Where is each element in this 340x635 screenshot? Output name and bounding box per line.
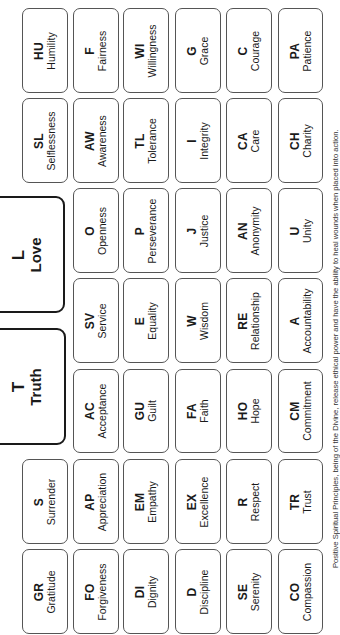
principle-name: Willingness	[147, 24, 158, 77]
principle-name: Awareness	[97, 115, 108, 167]
principle-cell: HUHumility	[22, 8, 68, 93]
principle-name: Hope	[250, 398, 261, 423]
principle-name: Dignity	[147, 575, 158, 607]
symbol: EM	[134, 481, 147, 522]
principle-name: Appreciation	[97, 472, 108, 530]
principle-name: Acceptance	[97, 384, 108, 439]
principle-cell: FFairness	[73, 8, 119, 93]
principle-name: Empathy	[147, 481, 158, 522]
principle-cell: SESerenity	[226, 549, 272, 634]
symbol: GU	[134, 400, 147, 422]
principle-name: Service	[97, 303, 108, 338]
principle-cell: EXExcellence	[175, 459, 221, 544]
principle-cell: WIWillingness	[123, 8, 169, 93]
principle-cell: DIDignity	[123, 549, 169, 634]
principle-cell: RERelationship	[226, 278, 272, 363]
principle-name: Courage	[250, 30, 261, 70]
principle-cell: EEquality	[123, 278, 169, 363]
symbol: P	[134, 198, 147, 263]
principle-name: Truth	[28, 368, 44, 406]
symbol: CA	[237, 129, 250, 152]
principle-name: Accountability	[301, 288, 312, 353]
symbol: I	[186, 122, 199, 159]
principle-cell: CMCommitment	[278, 369, 323, 453]
principle-name: Grace	[199, 36, 210, 65]
principle-name: Serenity	[250, 572, 261, 611]
symbol: O	[84, 207, 97, 255]
symbol: TR	[289, 490, 302, 514]
principle-cell: FOForgiveness	[73, 549, 119, 634]
principle-cell: UUnity	[278, 188, 323, 273]
principle-name: Patience	[301, 30, 312, 71]
symbol: U	[289, 219, 302, 243]
principle-cell: JJustice	[175, 188, 221, 273]
principle-name: Discipline	[199, 569, 210, 614]
symbol: SE	[237, 572, 250, 611]
principle-cell: CCourage	[226, 8, 272, 93]
principle-cell: PAPatience	[278, 8, 323, 93]
principle-name: Faith	[199, 399, 210, 422]
symbol: C	[237, 30, 250, 70]
principle-cell: EMEmpathy	[123, 459, 169, 544]
principle-name: Relationship	[250, 292, 261, 350]
symbol: AW	[84, 115, 97, 167]
symbol: T	[10, 368, 28, 406]
principle-name: Forgiveness	[97, 563, 108, 620]
principle-love-featured: LLove	[0, 196, 65, 313]
principle-name: Wisdom	[199, 302, 210, 340]
principle-cell: IIntegrity	[175, 98, 221, 183]
principle-cell: APAppreciation	[73, 459, 119, 544]
principle-name: Anonymity	[250, 206, 261, 255]
principle-name: Equality	[147, 302, 158, 339]
symbol: SL	[33, 111, 46, 170]
principle-name: Fairness	[97, 30, 108, 70]
principle-cell: ANAnonymity	[226, 188, 272, 273]
principle-cell: SVService	[73, 278, 119, 363]
principle-cell: TRTrust	[278, 459, 323, 544]
symbol: S	[33, 478, 46, 525]
principle-name: Trust	[301, 490, 312, 514]
principle-name: Excellence	[199, 476, 210, 527]
principle-cell: RRespect	[226, 459, 272, 544]
principle-name: Tolerance	[147, 118, 158, 164]
principle-cell: WWisdom	[175, 278, 221, 363]
symbol: D	[186, 569, 199, 614]
symbol: HU	[33, 32, 46, 69]
symbol: TL	[134, 118, 147, 164]
principle-cell: CHCharity	[278, 98, 323, 183]
symbol: EX	[186, 476, 199, 527]
principle-cell: GUGuilt	[123, 369, 169, 453]
principle-name: Compassion	[301, 562, 312, 620]
symbol: CO	[289, 562, 302, 620]
symbol: HO	[237, 398, 250, 423]
principle-name: Openness	[97, 207, 108, 255]
symbol: GR	[33, 570, 46, 613]
principle-name: Perseverance	[147, 198, 158, 263]
symbol: CH	[289, 124, 302, 157]
principle-cell: ACAcceptance	[73, 369, 119, 453]
symbol: AN	[237, 206, 250, 255]
principle-name: Love	[28, 237, 44, 272]
symbol: WI	[134, 24, 147, 77]
symbol: SV	[84, 303, 97, 338]
principle-name: Selflessness	[46, 111, 57, 170]
principle-cell: GRGratitude	[22, 549, 68, 634]
principle-cell: FAFaith	[175, 369, 221, 453]
principle-cell: DDiscipline	[175, 549, 221, 634]
principle-name: Humility	[46, 32, 57, 69]
principle-cell: COCompassion	[278, 549, 323, 634]
principle-name: Respect	[250, 482, 261, 521]
principle-cell: AAccountability	[278, 278, 323, 363]
symbol: W	[186, 302, 199, 340]
principle-name: Gratitude	[46, 570, 57, 613]
caption: Positive Spiritual Principles, being of …	[331, 129, 340, 568]
symbol: FO	[84, 563, 97, 620]
principle-cell: TLTolerance	[123, 98, 169, 183]
symbol: G	[186, 36, 199, 65]
principle-cell: CACare	[226, 98, 272, 183]
symbol: E	[134, 302, 147, 339]
principle-cell: SLSelflessness	[22, 98, 68, 183]
principle-name: Unity	[301, 219, 312, 243]
principle-cell: OOpenness	[73, 188, 119, 273]
principle-name: Guilt	[147, 400, 158, 422]
